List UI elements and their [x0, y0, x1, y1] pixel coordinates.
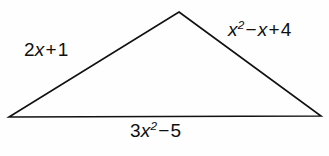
bottom-operator: − — [157, 120, 170, 141]
bottom-coefficient: 3 — [130, 120, 141, 141]
bottom-side-label: 3x2−5 — [130, 121, 181, 140]
triangle-figure: 2x+1 x2−x+4 3x2−5 — [0, 0, 329, 156]
left-operator: + — [44, 39, 57, 60]
left-coefficient: 2 — [24, 39, 35, 60]
right-term1-variable: x — [228, 19, 238, 40]
right-operator-2: + — [267, 19, 280, 40]
right-side-label: x2−x+4 — [228, 20, 292, 39]
right-operator-1: − — [244, 19, 257, 40]
right-term2-variable: x — [258, 19, 268, 40]
left-constant: 1 — [58, 39, 69, 60]
left-side-label: 2x+1 — [24, 40, 69, 59]
bottom-constant: 5 — [171, 120, 182, 141]
right-constant: 4 — [281, 19, 292, 40]
